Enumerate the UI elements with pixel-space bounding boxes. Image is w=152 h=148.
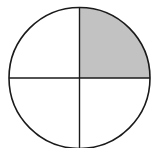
quadrant-top-right [80, 8, 151, 79]
quadrant-bottom-right [80, 78, 151, 148]
fraction-circle-diagram [0, 0, 152, 148]
quadrant-top-left [9, 8, 80, 79]
quadrant-bottom-left [9, 78, 80, 148]
